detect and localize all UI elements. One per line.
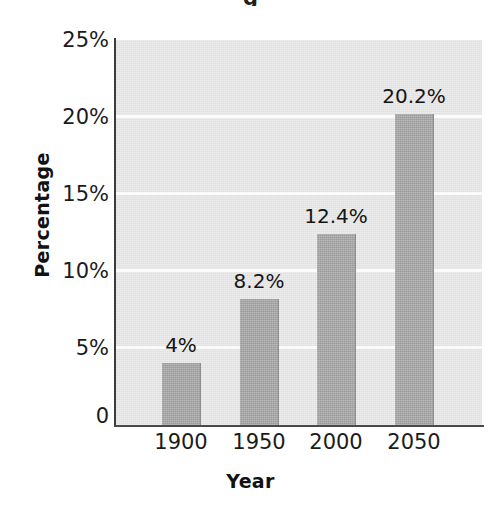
y-tick-label: 10%	[54, 261, 116, 282]
y-tick-label: 25%	[54, 30, 116, 51]
x-tick-label-1950: 1950	[232, 432, 285, 453]
x-axis-line	[114, 425, 484, 427]
bar-value-label-2000: 12.4%	[304, 206, 368, 226]
bar-2050[interactable]	[395, 114, 434, 425]
bar-2000[interactable]	[317, 234, 356, 425]
bar-value-label-1950: 8.2%	[234, 271, 285, 291]
x-axis-title: Year	[0, 470, 501, 492]
y-axis-tick-labels: 25% 20% 15% 10% 5% 0	[46, 0, 116, 508]
bar-value-label-1900: 4%	[165, 335, 197, 355]
x-tick-label-2050: 2050	[387, 432, 440, 453]
y-tick-label: 5%	[54, 338, 116, 359]
y-axis-line	[114, 38, 116, 427]
bar-1900[interactable]	[162, 363, 201, 425]
plot-area: 4% 8.2% 12.4% 20.2%	[116, 40, 482, 425]
chart-title-text: g	[243, 0, 258, 6]
y-tick-label: 0	[54, 406, 116, 427]
y-tick-label: 20%	[54, 107, 116, 128]
x-tick-label-1900: 1900	[154, 432, 207, 453]
chart-figure: g Percentage 25% 20% 15% 10% 5% 0 4% 8.2…	[0, 0, 501, 508]
x-tick-label-2000: 2000	[309, 432, 362, 453]
bar-value-label-2050: 20.2%	[382, 86, 446, 106]
bar-1950[interactable]	[240, 299, 279, 425]
y-tick-label: 15%	[54, 184, 116, 205]
